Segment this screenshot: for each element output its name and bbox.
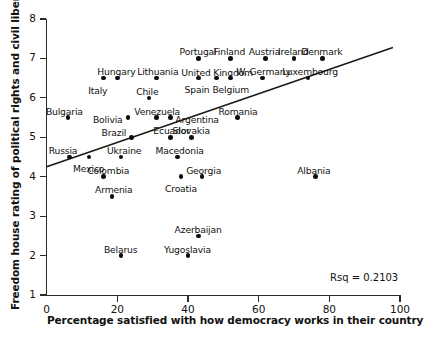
x-tick-label: 0 xyxy=(27,303,67,315)
data-point-label: Brazil xyxy=(101,127,126,138)
data-point-label: Armenia xyxy=(95,184,132,195)
data-point-label: Venezuela xyxy=(134,106,180,117)
x-tick-mark xyxy=(258,296,259,302)
data-point[interactable] xyxy=(179,174,184,179)
data-point-label: Slovakia xyxy=(173,125,210,136)
data-point-label: Georgia xyxy=(186,165,221,176)
data-point-label: Macedonia xyxy=(155,145,203,156)
data-point[interactable] xyxy=(228,76,233,81)
data-point-label: Luxembourg xyxy=(282,66,338,77)
data-point[interactable] xyxy=(87,155,92,160)
data-point-label: Portugal xyxy=(180,46,217,57)
y-axis-line xyxy=(46,19,47,296)
y-tick-label: 7 xyxy=(6,51,36,63)
x-axis-line xyxy=(46,295,401,296)
data-point-label: Croatia xyxy=(165,183,197,194)
data-point-label: Bulgaria xyxy=(46,106,83,117)
data-point[interactable] xyxy=(129,135,134,140)
scatter-plot-figure: Freedom house rating of political rights… xyxy=(0,0,444,340)
data-point-label: Lithuania xyxy=(137,66,178,77)
data-point-label: Yugoslavia xyxy=(164,244,211,255)
x-tick-label: 100 xyxy=(380,303,420,315)
data-point-label: Spain xyxy=(185,84,210,95)
data-point-label: Ukraine xyxy=(107,145,141,156)
x-tick-label: 80 xyxy=(309,303,349,315)
y-tick-mark xyxy=(40,294,46,295)
y-tick-label: 5 xyxy=(6,130,36,142)
y-tick-mark xyxy=(40,176,46,177)
x-tick-label: 40 xyxy=(168,303,208,315)
data-point-label: Colombia xyxy=(87,165,129,176)
data-point-label: Chile xyxy=(136,86,158,97)
data-point-label: Bolivia xyxy=(93,114,123,125)
y-tick-label: 1 xyxy=(6,288,36,300)
x-tick-mark xyxy=(399,296,400,302)
data-point-label: Denmark xyxy=(301,46,342,57)
y-tick-mark xyxy=(40,216,46,217)
data-point-label: Romania xyxy=(218,106,257,117)
x-tick-label: 60 xyxy=(239,303,279,315)
y-tick-mark xyxy=(40,137,46,138)
data-point-label: Austria xyxy=(249,46,280,57)
y-tick-mark xyxy=(40,18,46,19)
data-point-label: Belarus xyxy=(104,244,137,255)
y-tick-label: 3 xyxy=(6,209,36,221)
rsq-annotation: Rsq = 0.2103 xyxy=(330,272,398,283)
y-tick-label: 8 xyxy=(6,12,36,24)
x-tick-label: 20 xyxy=(97,303,137,315)
data-point-label: Italy xyxy=(88,85,107,96)
y-tick-mark xyxy=(40,58,46,59)
data-point-label: Argentina xyxy=(175,114,218,125)
data-point-label: Belgium xyxy=(212,84,249,95)
data-point-label: Hungary xyxy=(97,66,135,77)
x-tick-mark xyxy=(329,296,330,302)
y-tick-mark xyxy=(40,255,46,256)
data-point-label: Azerbaijan xyxy=(175,224,222,235)
y-tick-mark xyxy=(40,97,46,98)
x-tick-mark xyxy=(117,296,118,302)
y-tick-label: 4 xyxy=(6,170,36,182)
data-point-label: Albania xyxy=(297,165,330,176)
data-point-label: Russia xyxy=(49,145,78,156)
y-tick-label: 2 xyxy=(6,249,36,261)
plot-area: 12345678 020406080100 BulgariaRussiaMexi… xyxy=(0,0,444,340)
y-tick-label: 6 xyxy=(6,91,36,103)
data-point[interactable] xyxy=(168,115,173,120)
x-tick-mark xyxy=(187,296,188,302)
data-point[interactable] xyxy=(126,115,131,120)
data-point-label: Finland xyxy=(213,46,245,57)
